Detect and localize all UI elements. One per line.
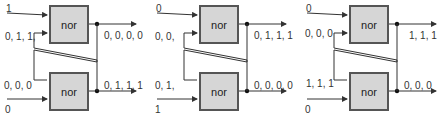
top-input-wire <box>157 13 197 15</box>
latch-panel-2: nor nor 0 0, 0, 0, 1, 1, 1 0, 1, 0, 0, 0… <box>155 3 293 115</box>
nor-gate-top-label: nor <box>61 19 77 31</box>
bottom-input-value: 1 <box>155 104 161 115</box>
nor-latch-diagram: nor nor 1 0, 1, 1, 0, 0, 0, 0 0, 0, 0 0,… <box>0 0 445 121</box>
nor-gate-bottom-label: nor <box>361 86 377 98</box>
nor-gate-top-label: nor <box>211 19 227 31</box>
nor-gate-bottom-label: nor <box>211 86 227 98</box>
nor-gate-bottom-label: nor <box>61 86 77 98</box>
bottom-feedback-value: 0, 1, <box>155 80 174 91</box>
latch-panel-3: nor nor 0 0, 0, 0 1, 1, 1 1, 1, 1 0, 0, … <box>305 3 437 115</box>
top-input-value: 0 <box>156 3 162 14</box>
top-input-value: 1 <box>6 3 12 14</box>
bottom-output-value: 0, 1, 1, 1 <box>104 80 143 91</box>
top-feedback-value: 0, 1, 1, <box>5 31 36 42</box>
top-output-value: 1, 1, 1 <box>409 30 437 41</box>
top-input-value: 0 <box>306 3 312 14</box>
top-input-wire <box>307 13 347 15</box>
top-feedback-value: 0, 0, 0 <box>305 28 333 39</box>
bottom-input-value: 0 <box>305 104 311 115</box>
bottom-output-value: 0, 0, 0 <box>404 80 432 91</box>
bottom-feedback-value: 0, 0, 0 <box>4 80 32 91</box>
top-input-wire <box>7 13 47 15</box>
latch-panel-1: nor nor 1 0, 1, 1, 0, 0, 0, 0 0, 0, 0 0,… <box>4 3 143 115</box>
nor-gate-top-label: nor <box>361 19 377 31</box>
top-output-value: 0, 1, 1, 1 <box>254 30 293 41</box>
bottom-output-value: 0, 0, 0, 0 <box>254 80 293 91</box>
bottom-feedback-value: 1, 1, 1 <box>306 78 334 89</box>
top-output-value: 0, 0, 0, 0 <box>104 30 143 41</box>
bottom-input-value: 0 <box>5 104 11 115</box>
top-feedback-value: 0, 0, <box>155 31 174 42</box>
